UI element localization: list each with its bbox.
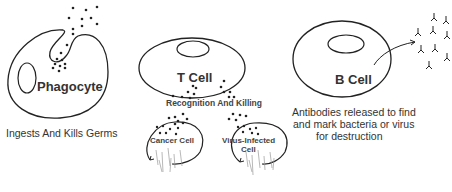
cell-debris: [156, 148, 182, 172]
phagocyte-cell: [8, 6, 108, 118]
b-cell-caption-line2: and mark bacteria or virus: [293, 118, 414, 130]
phagocyte-caption: Ingests And Kills Germs: [6, 127, 117, 139]
t-cell-action-label: Recognition And Killing: [166, 98, 262, 108]
b-cell-caption-line1: Antibodies released to find: [292, 106, 416, 118]
b-cell-caption-line3: for destruction: [316, 130, 383, 142]
antibodies: [415, 13, 450, 69]
cancer-cell: [147, 122, 203, 172]
t-cell-label: T Cell: [177, 70, 212, 85]
virus-infected-cell: [232, 123, 287, 175]
cancer-cell-label: Cancer Cell: [150, 136, 194, 145]
phagocyte-label: Phagocyte: [37, 79, 103, 94]
immune-cells-diagram: [0, 0, 452, 192]
virus-infected-label-line2: Cell: [241, 145, 256, 154]
b-cell-label: B Cell: [335, 72, 372, 87]
virus-infected-label-line1: Virus-Infected: [222, 136, 275, 145]
